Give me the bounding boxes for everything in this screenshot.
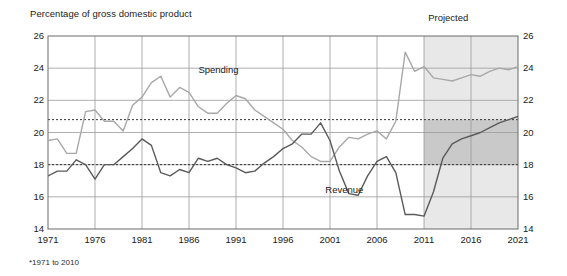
y-axis-tick-label: 24 xyxy=(523,62,539,73)
y-axis-tick-label: 18 xyxy=(28,159,44,170)
x-axis-tick-label: 1981 xyxy=(122,234,162,245)
chart-footnote: *1971 to 2010 xyxy=(29,258,79,267)
y-axis-tick-label: 20 xyxy=(28,127,44,138)
x-axis-tick-label: 1971 xyxy=(28,234,68,245)
y-axis-tick-label: 16 xyxy=(523,191,539,202)
x-axis-tick-label: 1991 xyxy=(216,234,256,245)
y-axis-tick-label: 16 xyxy=(28,191,44,202)
y-axis-tick-label: 22 xyxy=(28,94,44,105)
y-axis-tick-label: 26 xyxy=(523,30,539,41)
y-axis-tick-label: 26 xyxy=(28,30,44,41)
series-label-revenue: Revenue xyxy=(325,184,363,195)
x-axis-tick-label: 1986 xyxy=(169,234,209,245)
x-axis-tick-label: 2021 xyxy=(498,234,538,245)
x-axis-tick-label: 1996 xyxy=(263,234,303,245)
x-axis-tick-label: 2001 xyxy=(310,234,350,245)
x-axis-tick-label: 2011 xyxy=(404,234,444,245)
chart-container: Percentage of gross domestic product Pro… xyxy=(0,0,567,276)
y-axis-tick-label: 22 xyxy=(523,94,539,105)
y-axis-tick-label: 20 xyxy=(523,127,539,138)
y-axis-tick-label: 14 xyxy=(28,223,44,234)
projected-region-label: Projected xyxy=(428,12,468,23)
y-axis-tick-label: 14 xyxy=(523,223,539,234)
series-label-spending: Spending xyxy=(198,64,238,75)
y-axis-tick-label: 18 xyxy=(523,159,539,170)
chart-axis-title: Percentage of gross domestic product xyxy=(30,8,192,19)
x-axis-tick-label: 2016 xyxy=(451,234,491,245)
x-axis-tick-label: 1976 xyxy=(75,234,115,245)
y-axis-tick-label: 24 xyxy=(28,62,44,73)
x-axis-tick-label: 2006 xyxy=(357,234,397,245)
